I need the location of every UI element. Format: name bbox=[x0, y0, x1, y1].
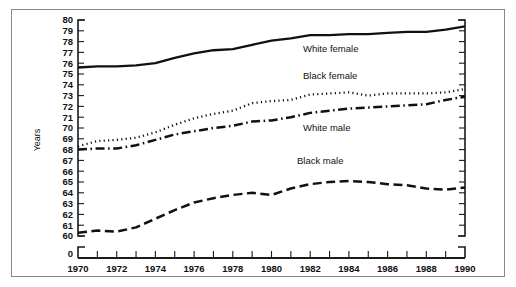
y-tick-label: 77 bbox=[62, 47, 73, 58]
y-tick-label: 75 bbox=[62, 68, 73, 79]
right-tick-marks bbox=[459, 20, 465, 236]
line-chart: 6061626364656667686970717273747576777879… bbox=[0, 0, 516, 287]
y-tick-label: 70 bbox=[62, 122, 73, 133]
series-label-black-female: Black female bbox=[303, 70, 357, 81]
y-tick-label: 61 bbox=[62, 220, 73, 231]
series-line-black-male bbox=[78, 181, 465, 233]
y-tick-label: 63 bbox=[62, 198, 73, 209]
figure-container: 6061626364656667686970717273747576777879… bbox=[0, 0, 516, 287]
data-series-group bbox=[78, 26, 465, 232]
y-tick-label: 67 bbox=[62, 155, 73, 166]
y-tick-label: 65 bbox=[62, 176, 73, 187]
x-axis: 1970197219741976197819801982198419861988… bbox=[67, 251, 475, 274]
series-line-white-male bbox=[78, 97, 465, 150]
x-tick-label: 1974 bbox=[145, 263, 167, 274]
series-label-black-male: Black male bbox=[297, 155, 343, 166]
chart-svg: 6061626364656667686970717273747576777879… bbox=[0, 0, 516, 287]
x-tick-label: 1990 bbox=[454, 263, 475, 274]
y-tick-label: 80 bbox=[62, 14, 73, 25]
x-tick-label: 1984 bbox=[338, 263, 360, 274]
x-tick-label: 1978 bbox=[222, 263, 243, 274]
y-tick-label: 71 bbox=[62, 112, 73, 123]
x-tick-labels: 1970197219741976197819801982198419861988… bbox=[67, 263, 475, 274]
x-tick-marks bbox=[97, 251, 445, 258]
series-annotations: White female Black female White male Bla… bbox=[297, 43, 358, 166]
series-line-white-female bbox=[78, 26, 465, 67]
right-axis bbox=[458, 20, 465, 258]
y-tick-label: 73 bbox=[62, 90, 73, 101]
y-zero-label: 0 bbox=[68, 248, 73, 259]
y-tick-label: 62 bbox=[62, 209, 73, 220]
y-tick-label: 69 bbox=[62, 133, 73, 144]
y-tick-label: 64 bbox=[62, 187, 73, 198]
series-label-white-male: White male bbox=[303, 122, 351, 133]
y-tick-label: 79 bbox=[62, 25, 73, 36]
x-tick-label: 1988 bbox=[416, 263, 437, 274]
series-label-white-female: White female bbox=[303, 43, 358, 54]
y-tick-label: 74 bbox=[62, 79, 73, 90]
y-tick-label: 72 bbox=[62, 101, 73, 112]
y-axis: 6061626364656667686970717273747576777879… bbox=[62, 14, 85, 258]
y-tick-label: 76 bbox=[62, 58, 73, 69]
y-tick-label: 66 bbox=[62, 166, 73, 177]
y-tick-label: 78 bbox=[62, 36, 73, 47]
y-tick-labels: 6061626364656667686970717273747576777879… bbox=[62, 14, 73, 258]
y-axis-title: Years bbox=[32, 128, 42, 151]
y-tick-marks bbox=[78, 20, 84, 236]
x-tick-label: 1982 bbox=[300, 263, 321, 274]
x-tick-label: 1980 bbox=[261, 263, 282, 274]
x-tick-label: 1976 bbox=[184, 263, 205, 274]
series-line-black-female bbox=[78, 89, 465, 146]
y-tick-label: 68 bbox=[62, 144, 73, 155]
x-tick-label: 1972 bbox=[106, 263, 127, 274]
x-tick-label: 1986 bbox=[377, 263, 398, 274]
y-tick-label: 60 bbox=[62, 230, 73, 241]
x-tick-label: 1970 bbox=[67, 263, 88, 274]
